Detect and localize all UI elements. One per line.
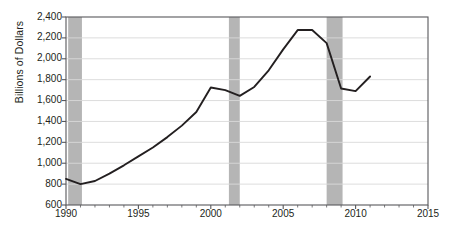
- x-axis-tick-label: 1995: [118, 209, 158, 219]
- data-series-line: [66, 30, 370, 184]
- recession-band-2008: [327, 17, 343, 205]
- chart-plot-area: [0, 0, 451, 238]
- recession-band-2001: [229, 17, 240, 205]
- axis-tick-group: [62, 17, 428, 209]
- x-axis-tick-label: 2005: [263, 209, 303, 219]
- plot-border: [66, 17, 428, 205]
- x-axis-tick-label: 2015: [408, 209, 448, 219]
- x-axis-tick-label: 1990: [46, 209, 86, 219]
- x-axis-tick-label: 2010: [336, 209, 376, 219]
- x-axis-tick-label: 2000: [191, 209, 231, 219]
- recession-shading-group: [68, 17, 342, 205]
- gridline-group: [66, 38, 428, 184]
- recession-band-1990: [68, 17, 82, 205]
- chart-container: Billions of Dollars 6008001,0001,2001,40…: [0, 0, 451, 238]
